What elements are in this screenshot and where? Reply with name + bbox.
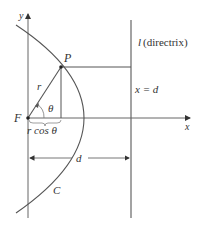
diagram-canvas: y x F P r θ r cos θ d C l (directrix) x …: [0, 0, 204, 229]
point-f: [26, 116, 30, 120]
directrix-equation: x = d: [134, 83, 159, 95]
focus-label: F: [13, 111, 22, 125]
directrix-text: (directrix): [143, 36, 188, 49]
curve-c-label: C: [53, 184, 61, 196]
curve-c: [16, 25, 84, 213]
rcos-label: r cos θ: [27, 124, 57, 136]
point-p-label: P: [63, 51, 72, 65]
distance-d-label: d: [76, 152, 82, 164]
point-p: [59, 65, 63, 69]
y-axis-label: y: [18, 10, 24, 21]
x-axis-label: x: [184, 121, 190, 132]
directrix-letter: l: [138, 36, 141, 48]
angle-label: θ: [48, 102, 54, 114]
radius-label: r: [37, 80, 42, 92]
radius-segment: [28, 67, 61, 118]
directrix-diagram: y x F P r θ r cos θ d C l (directrix) x …: [0, 0, 204, 229]
